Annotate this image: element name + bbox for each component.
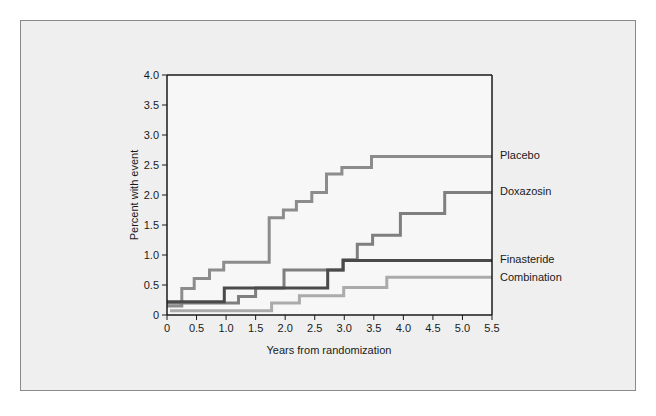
km-chart: 00.51.01.52.02.53.03.54.000.51.01.52.02.… <box>0 0 656 416</box>
legend-labels: PlaceboDoxazosinFinasterideCombination <box>500 149 562 283</box>
y-tick-label: 1.0 <box>144 249 159 261</box>
y-tick-label: 3.0 <box>144 129 159 141</box>
x-tick-label: 4.0 <box>396 322 411 334</box>
x-tick-label: 1.5 <box>248 322 263 334</box>
x-tick-label: 3.5 <box>366 322 381 334</box>
y-tick-label: 1.5 <box>144 219 159 231</box>
x-tick-label: 2.0 <box>278 322 293 334</box>
legend-label-combination: Combination <box>500 271 562 283</box>
y-axis-title: Percent with event <box>128 150 140 241</box>
y-tick-label: 2.0 <box>144 189 159 201</box>
x-tick-label: 1.0 <box>218 322 233 334</box>
x-tick-label: 0 <box>164 322 170 334</box>
legend-label-finasteride: Finasteride <box>500 253 554 265</box>
x-tick-label: 3.0 <box>337 322 352 334</box>
x-tick-label: 5.5 <box>484 322 499 334</box>
y-tick-label: 0.5 <box>144 279 159 291</box>
y-tick-label: 2.5 <box>144 159 159 171</box>
x-tick-label: 0.5 <box>189 322 204 334</box>
y-tick-label: 0 <box>153 309 159 321</box>
x-tick-label: 4.5 <box>425 322 440 334</box>
x-tick-label: 5.0 <box>455 322 470 334</box>
y-tick-label: 4.0 <box>144 69 159 81</box>
x-tick-label: 2.5 <box>307 322 322 334</box>
legend-label-doxazosin: Doxazosin <box>500 185 551 197</box>
legend-label-placebo: Placebo <box>500 149 540 161</box>
y-tick-label: 3.5 <box>144 99 159 111</box>
x-axis-title: Years from randomization <box>267 344 392 356</box>
